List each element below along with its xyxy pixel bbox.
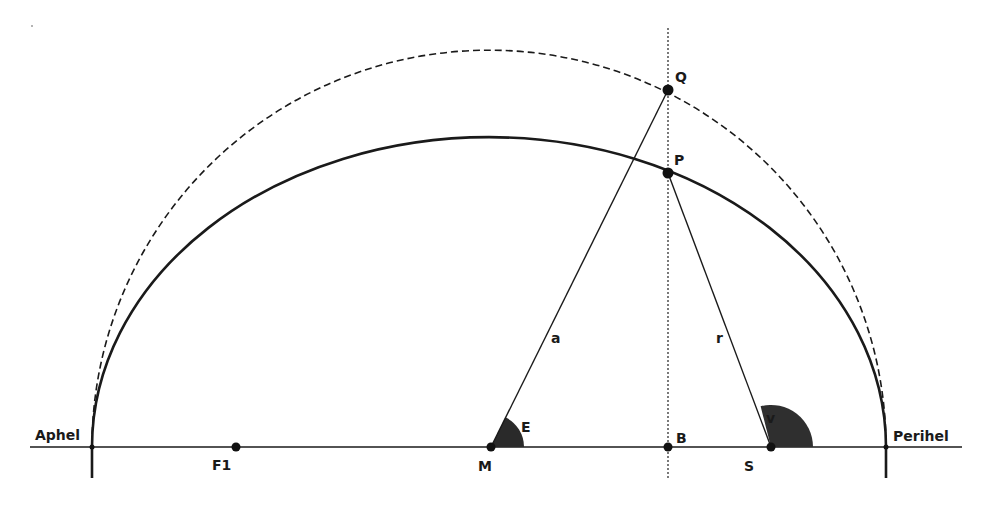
label-q: Q	[675, 69, 687, 85]
point-m	[487, 443, 496, 452]
label-p: P	[674, 152, 684, 168]
label-e: E	[521, 419, 531, 435]
point-b	[664, 443, 673, 452]
point-f1	[232, 443, 241, 452]
label-b: B	[676, 430, 687, 446]
stray-dot	[31, 25, 33, 27]
point-q	[663, 85, 674, 96]
line-r	[668, 173, 771, 447]
label-perihel: Perihel	[893, 428, 949, 444]
label-s: S	[744, 458, 754, 474]
label-aphel: Aphel	[35, 427, 80, 443]
orbit-diagram: Aphel Perihel F1 M B S Q P a r E v	[0, 0, 985, 509]
point-p	[663, 168, 674, 179]
label-r: r	[716, 330, 723, 346]
angle-e-wedge	[491, 417, 524, 447]
label-v: v	[766, 410, 775, 426]
label-a: a	[551, 330, 560, 346]
line-a	[491, 90, 668, 447]
label-m: M	[478, 458, 492, 474]
label-f1: F1	[212, 457, 231, 473]
point-s	[767, 443, 776, 452]
point-perihel	[884, 445, 889, 450]
point-aphel	[90, 445, 95, 450]
